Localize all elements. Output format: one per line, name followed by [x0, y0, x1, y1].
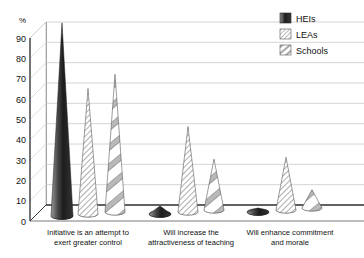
y-tick-40: 40: [16, 135, 26, 145]
legend-swatch-leas: [280, 29, 291, 39]
cat-label-3-line-2: and morale: [271, 238, 309, 247]
chart-container: 0 10 20 30 40 50 60 70 80 90 %: [0, 0, 364, 258]
plot-side-wall: [30, 22, 46, 221]
x-axis-category-labels: Initiative is an attempt to exert greate…: [47, 228, 334, 247]
cat-label-2-line-1: Will increase the: [163, 228, 219, 237]
legend-swatch-heis: [280, 13, 291, 23]
cat-label-2-line-2: attractiveness of teaching: [148, 238, 234, 247]
legend-label-leas: LEAs: [296, 30, 318, 40]
cat-label-1-line-2: exert greater control: [54, 238, 122, 247]
cat-label-1-line-1: Initiative is an attempt to: [47, 228, 129, 237]
y-tick-90: 90: [16, 34, 26, 44]
legend-item-schools[interactable]: Schools: [280, 45, 329, 56]
legend-item-heis[interactable]: HEIs: [280, 13, 316, 24]
legend-swatch-schools: [280, 45, 291, 55]
legend-item-leas[interactable]: LEAs: [280, 29, 318, 40]
chart-canvas: 0 10 20 30 40 50 60 70 80 90 %: [0, 0, 364, 258]
y-tick-50: 50: [16, 115, 26, 125]
y-tick-20: 20: [16, 176, 26, 186]
y-tick-30: 30: [16, 156, 26, 166]
y-tick-0: 0: [21, 217, 26, 227]
y-tick-80: 80: [16, 54, 26, 64]
y-axis-unit-label: %: [19, 16, 26, 25]
legend-label-heis: HEIs: [296, 14, 316, 24]
y-tick-60: 60: [16, 95, 26, 105]
legend-label-schools: Schools: [296, 46, 329, 56]
y-axis-ticks: 0 10 20 30 40 50 60 70 80 90 %: [16, 16, 26, 227]
y-tick-70: 70: [16, 74, 26, 84]
y-tick-10: 10: [16, 196, 26, 206]
cat-label-3-line-1: Will enhance commitment: [247, 228, 335, 237]
